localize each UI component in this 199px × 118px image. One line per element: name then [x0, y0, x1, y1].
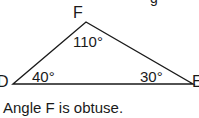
caption-text: Angle F is obtuse.: [3, 100, 123, 116]
angle-label-e: 30°: [140, 69, 163, 85]
vertex-label-e: E: [192, 74, 199, 90]
angle-label-f: 110°: [73, 34, 103, 50]
vertex-label-f: F: [73, 5, 83, 21]
partial-top-text: g: [150, 0, 158, 6]
vertex-label-d: D: [0, 74, 9, 90]
angle-label-d: 40°: [32, 69, 55, 85]
